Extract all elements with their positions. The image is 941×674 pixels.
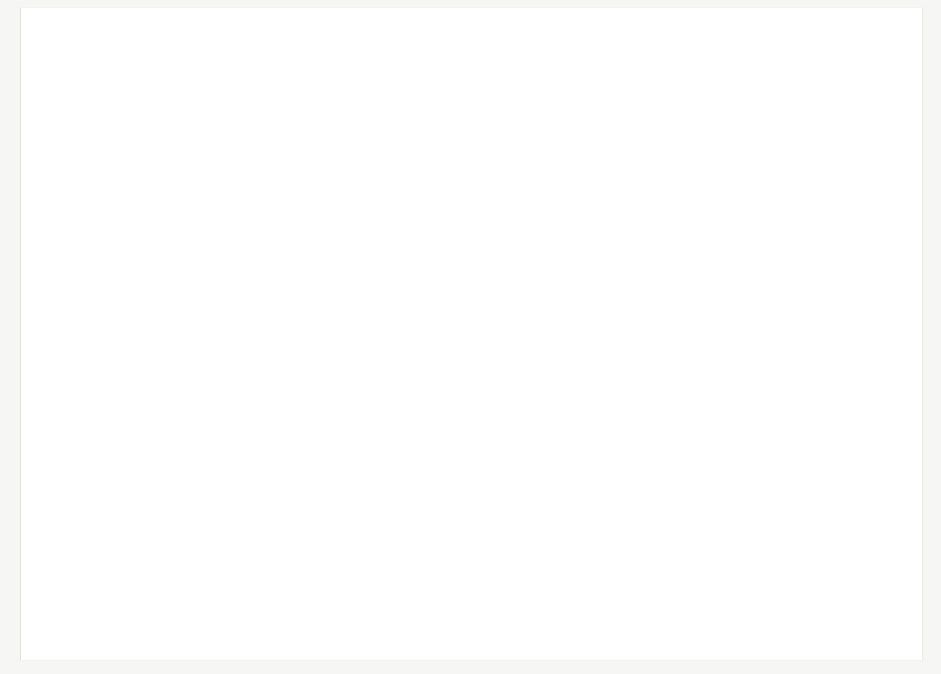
- plot-area: [21, 8, 922, 660]
- chart-sheet: [20, 8, 923, 660]
- x-axis-ticks: [21, 552, 922, 572]
- chart-page: [0, 0, 941, 674]
- chart-legend: [111, 578, 901, 598]
